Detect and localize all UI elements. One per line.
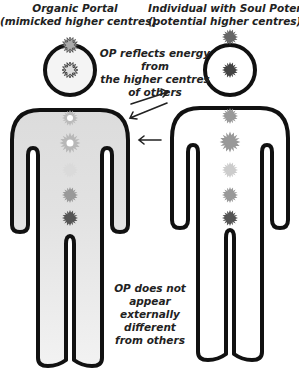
annotation-line: of others xyxy=(90,86,220,99)
bottom-annotation: OP does not appear externally different … xyxy=(100,282,200,347)
arrow-left-icon xyxy=(130,103,167,119)
left-subtitle: (mimicked higher centres) xyxy=(0,15,150,27)
left-title: Organic Portal xyxy=(0,2,150,14)
right-title: Individual with Soul Potential xyxy=(148,2,298,14)
top-annotation: OP reflects energy from the higher centr… xyxy=(90,47,220,99)
annotation-line: different xyxy=(100,321,200,334)
arrow-left-lower-icon xyxy=(139,136,161,144)
annotation-line: the higher centres xyxy=(90,73,220,86)
annotation-line: appear externally xyxy=(100,295,200,321)
annotation-line: OP does not xyxy=(100,282,200,295)
annotation-line: from others xyxy=(100,334,200,347)
annotation-line: OP reflects energy from xyxy=(90,47,220,73)
diagram: Organic Portal (mimicked higher centres)… xyxy=(0,0,299,373)
right-subtitle: (potential higher centres) xyxy=(148,15,298,27)
